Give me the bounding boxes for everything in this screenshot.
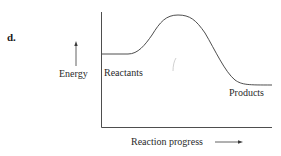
- energy-arrow-icon: [74, 41, 77, 66]
- x-axis-label: Reaction progress: [131, 136, 203, 147]
- stray-mark: [173, 58, 176, 71]
- part-label: d.: [7, 31, 16, 43]
- products-label: Products: [229, 87, 264, 98]
- reactants-label: Reactants: [104, 67, 143, 78]
- y-axis-label: Energy: [59, 68, 88, 79]
- progress-arrow-icon: [215, 140, 243, 143]
- energy-diagram: d. Energy Reactants Products Reaction pr…: [0, 0, 281, 156]
